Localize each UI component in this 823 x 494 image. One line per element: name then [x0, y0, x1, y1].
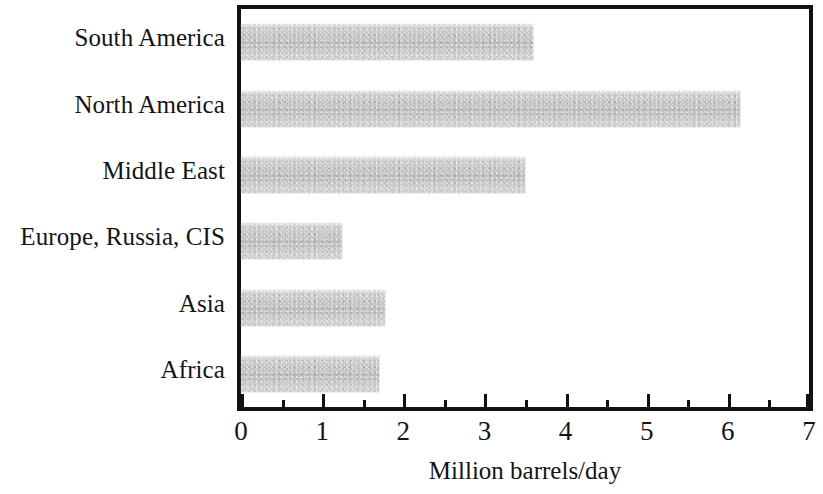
bar-asia [241, 290, 385, 326]
plot-area [241, 9, 809, 407]
category-label-north-america: North America [0, 92, 225, 117]
category-label-south-america: South America [0, 25, 225, 50]
x-minor-tick-4.5 [606, 400, 609, 407]
bar-middle-east [241, 157, 525, 193]
x-tick-label-4: 4 [559, 418, 573, 445]
x-tick-label-3: 3 [478, 418, 492, 445]
bar-south-america [241, 24, 533, 60]
x-major-tick-2 [403, 394, 406, 407]
category-label-asia: Asia [0, 291, 225, 316]
x-major-tick-4 [566, 394, 569, 407]
category-label-europe-russia-cis: Europe, Russia, CIS [0, 224, 225, 249]
x-axis-title: Million barrels/day [237, 458, 813, 483]
x-axis-tick-labels: 01234567 [237, 418, 813, 454]
category-label-africa: Africa [0, 357, 225, 382]
x-tick-label-6: 6 [721, 418, 735, 445]
x-tick-label-5: 5 [640, 418, 654, 445]
bar-europe-russia-cis [241, 223, 342, 259]
x-major-tick-1 [322, 394, 325, 407]
x-major-tick-7 [806, 394, 809, 407]
x-tick-label-2: 2 [397, 418, 411, 445]
x-minor-tick-3.5 [525, 400, 528, 407]
bar-north-america [241, 91, 740, 127]
x-major-tick-0 [241, 394, 244, 407]
category-axis-labels: South America North America Middle East … [0, 5, 231, 411]
x-minor-tick-2.5 [444, 400, 447, 407]
x-minor-tick-5.5 [687, 400, 690, 407]
plot-frame [237, 5, 813, 411]
category-label-middle-east: Middle East [0, 158, 225, 183]
x-tick-label-0: 0 [234, 418, 248, 445]
x-tick-label-7: 7 [802, 418, 816, 445]
bar-africa [241, 356, 379, 392]
x-major-tick-3 [484, 394, 487, 407]
x-minor-tick-1.5 [363, 400, 366, 407]
x-minor-tick-0.5 [282, 400, 285, 407]
x-major-tick-6 [728, 394, 731, 407]
x-tick-label-1: 1 [315, 418, 329, 445]
bar-chart: South America North America Middle East … [0, 0, 823, 494]
x-minor-tick-6.5 [768, 400, 771, 407]
x-major-tick-5 [647, 394, 650, 407]
